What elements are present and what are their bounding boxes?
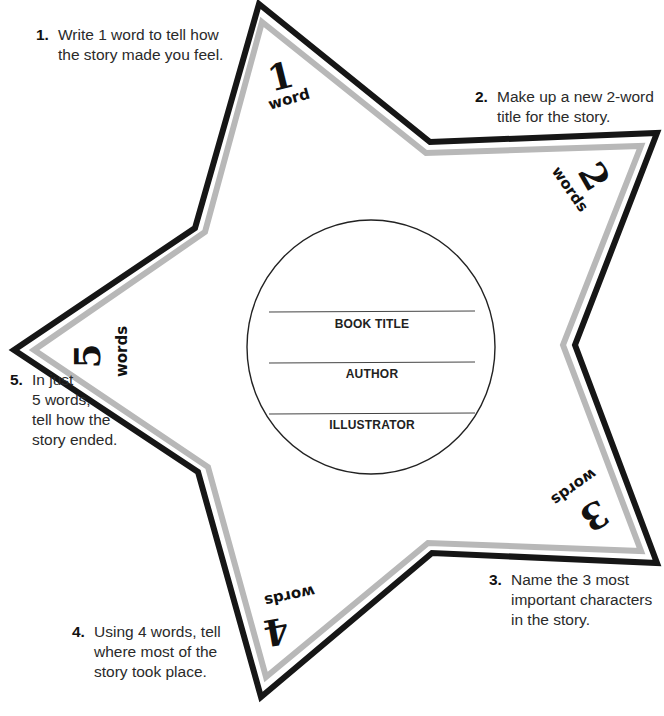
tip-5-numeral: 5 xyxy=(69,343,105,368)
prompt-4-line-3: story took place. xyxy=(72,662,221,682)
prompt-4-line-1: Using 4 words, tell xyxy=(94,623,221,640)
prompt-1-number: 1. xyxy=(36,25,58,45)
author-label: AUTHOR xyxy=(269,367,475,381)
book-title-label: BOOK TITLE xyxy=(269,317,475,331)
prompt-5-line-1: In just xyxy=(32,371,73,388)
prompt-5-line-2: 5 words, xyxy=(10,390,117,410)
prompt-1-line-2: the story made you feel. xyxy=(36,45,223,65)
prompt-3-line-1: Name the 3 most xyxy=(511,571,629,588)
prompt-2-number: 2. xyxy=(475,87,497,107)
prompt-3-line-3: in the story. xyxy=(489,610,652,630)
prompt-3-number: 3. xyxy=(489,570,511,590)
prompt-4: 4.Using 4 words, tell where most of the … xyxy=(72,622,221,682)
prompt-1: 1.Write 1 word to tell how the story mad… xyxy=(36,25,223,65)
prompt-2-line-2: title for the story. xyxy=(475,107,654,127)
prompt-5: 5.In just 5 words, tell how the story en… xyxy=(10,370,117,450)
prompt-5-line-3: tell how the xyxy=(10,410,117,430)
prompt-1-line-1: Write 1 word to tell how xyxy=(58,26,219,43)
illustrator-label: ILLUSTRATOR xyxy=(269,418,475,432)
prompt-4-line-2: where most of the xyxy=(72,642,221,662)
center-circle xyxy=(247,220,495,474)
prompt-4-number: 4. xyxy=(72,622,94,642)
prompt-5-line-4: story ended. xyxy=(10,430,117,450)
prompt-2-line-1: Make up a new 2-word xyxy=(497,88,654,105)
prompt-5-number: 5. xyxy=(10,370,32,390)
prompt-3-line-2: important characters xyxy=(489,590,652,610)
prompt-3: 3.Name the 3 most important characters i… xyxy=(489,570,652,630)
prompt-2: 2.Make up a new 2-word title for the sto… xyxy=(475,87,654,127)
tip-5-word: words xyxy=(115,326,130,377)
